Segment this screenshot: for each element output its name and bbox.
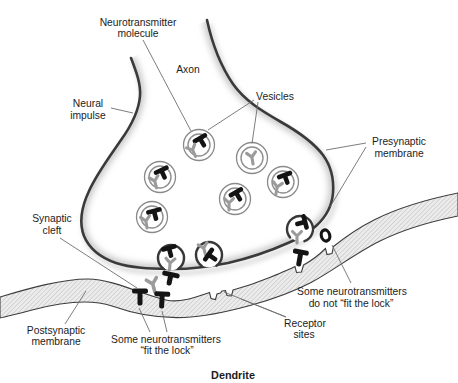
- vesicle: [145, 162, 176, 193]
- vesicle: [220, 184, 251, 215]
- label-postsynaptic-membrane: membrane: [31, 336, 80, 347]
- label-receptor-sites: sites: [293, 329, 314, 340]
- label-fit-the-lock: “fit the lock”: [140, 345, 194, 356]
- label-synaptic-cleft: cleft: [43, 225, 62, 236]
- leader-neural-impulse: [111, 108, 133, 113]
- vesicle: [268, 167, 299, 198]
- label-neurotransmitter-molecule: molecule: [117, 28, 158, 39]
- label-vesicles: Vesicles: [256, 91, 294, 102]
- vesicle: [237, 143, 268, 174]
- label-neural-impulse: impulse: [70, 110, 106, 121]
- label-dendrite: Dendrite: [211, 369, 255, 381]
- label-neural-impulse: Neural: [73, 98, 103, 109]
- fusing-vesicle: [158, 244, 184, 271]
- label-axon: Axon: [176, 64, 200, 75]
- label-postsynaptic-membrane: Postsynaptic: [27, 325, 85, 336]
- neurotransmitter-O-molecule-icon: [320, 229, 331, 242]
- vesicle: [137, 202, 168, 233]
- neurotransmitter-Y-molecule-icon: [146, 278, 159, 293]
- label-presynaptic-membrane: membrane: [374, 148, 423, 159]
- synapse-diagram: Neurotransmitter molecule Axon Vesicles …: [0, 0, 458, 383]
- label-synaptic-cleft: Synaptic: [32, 213, 72, 224]
- fusing-vesicle: [196, 242, 222, 267]
- label-receptor-sites: Receptor: [284, 318, 326, 329]
- label-neurotransmitter-molecule: Neurotransmitter: [100, 17, 177, 28]
- diagram-canvas: Neurotransmitter molecule Axon Vesicles …: [0, 0, 458, 383]
- label-do-not-fit-the-lock: do not “fit the lock”: [309, 298, 394, 309]
- label-fit-the-lock: Some neurotransmitters: [111, 334, 221, 345]
- leader-presynaptic-a: [326, 143, 366, 150]
- label-presynaptic-membrane: Presynaptic: [372, 136, 426, 147]
- label-do-not-fit-the-lock: Some neurotransmitters: [297, 286, 407, 297]
- vesicle: [184, 130, 215, 161]
